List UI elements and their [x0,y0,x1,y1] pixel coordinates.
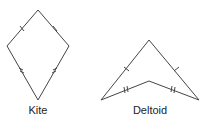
kite-label: Kite [29,104,48,116]
kite-shape [7,10,69,100]
deltoid-shape [101,40,199,100]
shapes-diagram [0,0,209,121]
deltoid-label: Deltoid [133,104,167,116]
